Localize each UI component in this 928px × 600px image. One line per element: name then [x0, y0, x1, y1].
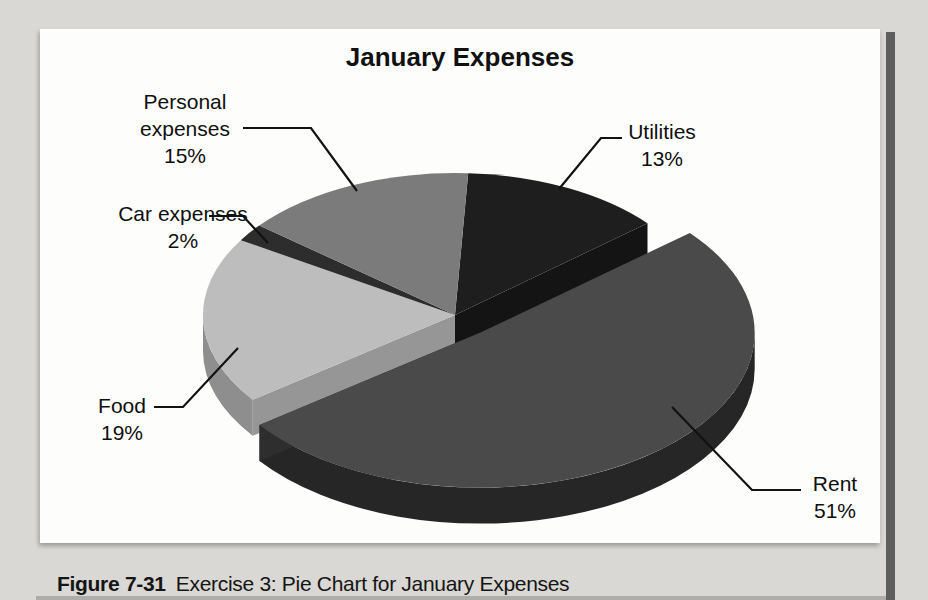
slice-label-text: Car expenses — [103, 200, 263, 227]
slice-percent-text: 19% — [62, 419, 182, 446]
slice-percent-text: 13% — [597, 145, 727, 172]
leader-line-personal-expenses — [243, 128, 357, 191]
slice-label-rent: Rent 51% — [775, 470, 895, 524]
slice-label-text: Food — [62, 392, 182, 419]
slice-label-text: Rent — [775, 470, 895, 497]
slice-percent-text: 15% — [110, 142, 260, 169]
slice-percent-text: 2% — [103, 227, 263, 254]
slice-label-text: expenses — [110, 115, 260, 142]
textbook-figure-page: January Expenses Personal expenses 15% U… — [0, 0, 928, 600]
figure-caption: Figure 7-31Exercise 3: Pie Chart for Jan… — [57, 572, 569, 596]
slice-label-personal-expenses: Personal expenses 15% — [110, 88, 260, 169]
slice-label-utilities: Utilities 13% — [597, 118, 727, 172]
slice-label-text: Personal — [110, 88, 260, 115]
slice-label-car-expenses: Car expenses 2% — [103, 200, 263, 254]
slice-label-text: Utilities — [597, 118, 727, 145]
slice-label-food: Food 19% — [62, 392, 182, 446]
figure-caption-text: Exercise 3: Pie Chart for January Expens… — [176, 572, 570, 595]
figure-caption-label: Figure 7-31 — [57, 572, 166, 595]
pie-3d — [203, 173, 755, 524]
slice-percent-text: 51% — [775, 497, 895, 524]
